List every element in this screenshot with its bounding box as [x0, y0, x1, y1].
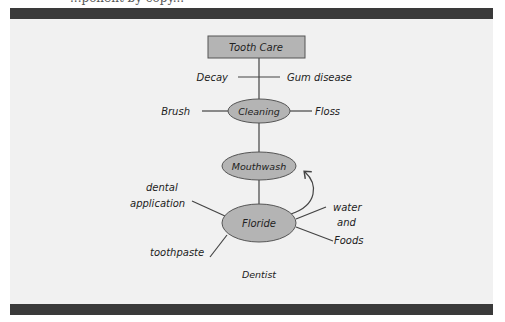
- dental-label: dental: [146, 182, 178, 193]
- mind-map: Tooth Care Cleaning Mouthwash Floride De…: [0, 0, 505, 322]
- water-label: water: [333, 202, 362, 213]
- floride-label: Floride: [242, 218, 276, 229]
- water-line: [296, 207, 326, 219]
- curved-arrow-icon: [291, 172, 313, 214]
- toothpaste-line: [210, 235, 227, 257]
- dental-application-line: [192, 201, 225, 216]
- tooth-care-label: Tooth Care: [229, 42, 283, 53]
- toothpaste-label: toothpaste: [150, 247, 204, 258]
- gum-disease-label: Gum disease: [287, 72, 352, 83]
- floss-label: Floss: [315, 106, 340, 117]
- application-label: application: [130, 198, 185, 209]
- mouthwash-label: Mouthwash: [232, 161, 286, 172]
- foods-label: Foods: [334, 235, 364, 246]
- dentist-label: Dentist: [242, 269, 277, 280]
- decay-label: Decay: [197, 72, 229, 83]
- foods-line: [296, 227, 333, 241]
- brush-label: Brush: [161, 106, 190, 117]
- cleaning-label: Cleaning: [238, 106, 280, 117]
- and-label: and: [337, 217, 356, 228]
